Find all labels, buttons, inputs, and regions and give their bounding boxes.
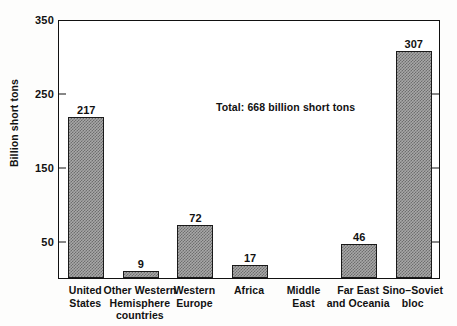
bar — [177, 225, 213, 278]
y-axis-tick-mark-left — [58, 242, 66, 243]
y-axis-tick-labels: 50150250350 — [14, 0, 54, 326]
x-axis-tick-label-line: Sino–Soviet — [370, 284, 456, 297]
y-axis-tick-mark-right — [432, 168, 440, 169]
bar — [123, 271, 159, 278]
y-axis-tick-label: 350 — [20, 15, 54, 26]
y-axis-tick-mark-left — [58, 94, 66, 95]
x-axis-tick-label-line: Europe — [151, 297, 237, 310]
bar — [341, 244, 377, 278]
bar-value-label: 17 — [244, 252, 256, 264]
y-axis-tick-label: 50 — [20, 237, 54, 248]
chart-screenshot: Billion short tons 50150250350 217972174… — [0, 0, 457, 326]
plot-area: 2179721746307 Total: 668 billion short t… — [58, 20, 440, 279]
bar-value-label: 46 — [353, 231, 365, 243]
y-axis-tick-label: 150 — [20, 163, 54, 174]
x-axis-tick-label: Sino–Sovietbloc — [370, 284, 456, 309]
x-axis-tick-label-line: bloc — [370, 297, 456, 310]
y-axis-tick-mark-left — [58, 168, 66, 169]
x-axis-tick-label-line: countries — [97, 309, 183, 322]
y-axis-tick-label: 250 — [20, 89, 54, 100]
bar — [396, 51, 432, 278]
y-axis-tick-mark-right — [432, 242, 440, 243]
bar-value-label: 307 — [405, 38, 423, 50]
bar-value-label: 217 — [77, 104, 95, 116]
bar-value-label: 9 — [138, 258, 144, 270]
bar — [68, 117, 104, 278]
bar — [232, 265, 268, 278]
y-axis-tick-mark-right — [432, 94, 440, 95]
bar-value-label: 72 — [189, 212, 201, 224]
total-annotation: Total: 668 billion short tons — [216, 101, 355, 113]
